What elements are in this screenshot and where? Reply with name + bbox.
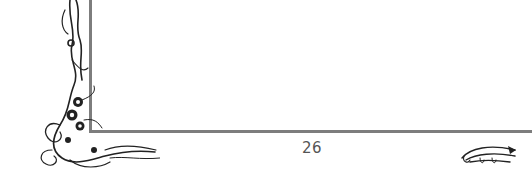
floral-corner-ornament-icon xyxy=(10,0,160,176)
scroll-ornament-icon xyxy=(460,140,517,170)
page-number: 26 xyxy=(302,139,322,157)
